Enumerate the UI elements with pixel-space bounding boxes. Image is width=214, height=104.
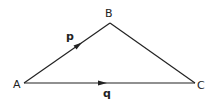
edge-bc [110,23,195,83]
vertex-label-b: B [105,7,113,20]
vector-label-p: p [66,30,74,43]
vertex-label-c: C [197,79,205,92]
arrowhead-p-icon [74,43,83,50]
vector-triangle-diagram: A B C p q [0,0,214,104]
vertex-label-a: A [13,78,21,91]
arrowhead-q-icon [98,81,107,86]
vector-label-q: q [103,87,111,100]
